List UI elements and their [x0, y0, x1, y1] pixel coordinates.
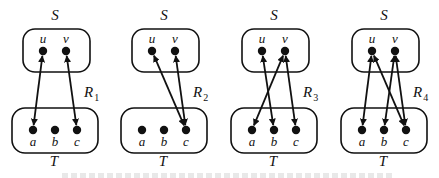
relation-label-r1: R1 — [83, 84, 99, 103]
element-a-dot — [138, 126, 146, 134]
element-a-dot — [358, 126, 366, 134]
element-u-dot — [39, 47, 47, 55]
element-b-dot — [270, 126, 278, 134]
edge-v-c — [176, 56, 186, 125]
element-c-label: c — [403, 134, 409, 149]
element-b-dot — [380, 126, 388, 134]
edge-u-a — [34, 56, 43, 125]
set-s-box — [132, 29, 199, 72]
element-c-label: c — [74, 134, 80, 149]
panel-relation-4: STuvabcR4 — [341, 7, 428, 169]
set-s-box — [23, 29, 90, 72]
edge-v-a — [254, 56, 283, 126]
relation-label-r2: R2 — [192, 84, 208, 103]
element-b-dot — [51, 126, 59, 134]
element-a-label: a — [30, 134, 37, 149]
set-label-s: S — [380, 7, 388, 23]
element-u-dot — [148, 47, 156, 55]
set-label-t: T — [159, 153, 169, 169]
element-b-label: b — [381, 134, 388, 149]
edge-v-b — [385, 56, 395, 125]
element-b-label: b — [161, 134, 168, 149]
element-b-dot — [160, 126, 168, 134]
relations-diagram: STuvabcR1STuvabcR2STuvabcR3STuvabcR4 — [0, 0, 439, 178]
element-v-label: v — [172, 31, 178, 46]
set-label-s: S — [160, 7, 168, 23]
element-v-label: v — [282, 31, 288, 46]
element-a-label: a — [139, 134, 146, 149]
edge-v-c — [67, 56, 77, 125]
element-v-label: v — [63, 31, 69, 46]
element-u-label: u — [259, 31, 266, 46]
panel-relation-1: STuvabcR1 — [12, 7, 99, 169]
element-u-label: u — [40, 31, 47, 46]
panel-relation-2: STuvabcR2 — [121, 7, 208, 169]
figure-caption-cutoff — [62, 173, 392, 178]
element-a-label: a — [249, 134, 256, 149]
set-s-box — [242, 29, 309, 72]
element-a-dot — [29, 126, 37, 134]
element-b-label: b — [52, 134, 59, 149]
set-label-t: T — [50, 153, 60, 169]
element-v-dot — [171, 47, 179, 55]
edge-u-c — [154, 56, 184, 126]
edge-u-a — [363, 56, 372, 125]
element-b-label: b — [271, 134, 278, 149]
element-a-dot — [248, 126, 256, 134]
relation-label-r3: R3 — [302, 84, 318, 103]
element-u-label: u — [149, 31, 156, 46]
element-u-label: u — [369, 31, 376, 46]
edge-v-c — [396, 56, 406, 125]
element-a-label: a — [359, 134, 366, 149]
panel-relation-3: STuvabcR3 — [231, 7, 318, 169]
element-c-dot — [292, 126, 300, 134]
set-label-s: S — [270, 7, 278, 23]
set-label-t: T — [379, 153, 389, 169]
element-c-dot — [73, 126, 81, 134]
set-label-s: S — [51, 7, 59, 23]
element-v-dot — [391, 47, 399, 55]
element-u-dot — [258, 47, 266, 55]
element-v-dot — [62, 47, 70, 55]
element-v-dot — [281, 47, 289, 55]
element-v-label: v — [392, 31, 398, 46]
set-s-box — [352, 29, 419, 72]
edge-v-c — [286, 56, 296, 125]
element-c-dot — [182, 126, 190, 134]
element-c-label: c — [293, 134, 299, 149]
element-c-label: c — [183, 134, 189, 149]
relation-label-r4: R4 — [412, 84, 428, 103]
element-u-dot — [368, 47, 376, 55]
set-label-t: T — [269, 153, 279, 169]
element-c-dot — [402, 126, 410, 134]
